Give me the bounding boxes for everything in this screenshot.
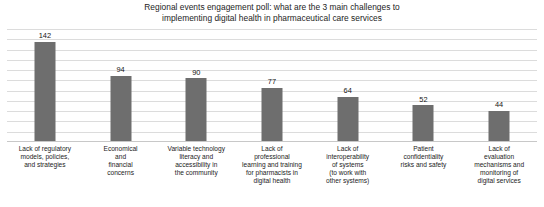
bar[interactable] xyxy=(489,111,510,142)
bar-group[interactable]: 64 xyxy=(310,29,386,142)
bar-group[interactable]: 44 xyxy=(461,29,537,142)
category-label-line: interoperability xyxy=(310,153,386,161)
category-label-line: risks and safety xyxy=(386,161,462,169)
category-label-line: of systems xyxy=(310,161,386,169)
category-label-line: Patient xyxy=(386,145,462,153)
bar-group[interactable]: 94 xyxy=(83,29,159,142)
bar-value-label: 44 xyxy=(495,101,503,109)
category-label-line: Economical xyxy=(83,145,159,153)
category-label-line: Lack of xyxy=(234,145,310,153)
category-label-line: for pharmacists in xyxy=(234,169,310,177)
bar-value-label: 77 xyxy=(268,78,276,86)
bar[interactable] xyxy=(413,105,434,142)
category-label-line: the community xyxy=(158,169,234,177)
chart-title: Regional events engagement poll: what ar… xyxy=(0,2,544,24)
category-label-line: Variable technology xyxy=(158,145,234,153)
bar-value-label: 64 xyxy=(344,87,352,95)
category-label-line: financial xyxy=(83,161,159,169)
bar-value-label: 142 xyxy=(39,32,51,40)
category-label-line: models, policies, xyxy=(7,153,83,161)
category-label-line: Lack of xyxy=(461,145,537,153)
category-label: Variable technologyliteracy andaccessibi… xyxy=(158,145,234,177)
category-label-line: literacy and xyxy=(158,153,234,161)
bar-value-label: 94 xyxy=(116,66,124,74)
bar-value-label: 52 xyxy=(419,96,427,104)
bar-group[interactable]: 142 xyxy=(7,29,83,142)
category-label: Lack ofevaluationmechanisms andmonitorin… xyxy=(461,145,537,185)
category-label-line: (to work with xyxy=(310,169,386,177)
category-label: Patientconfidentialityrisks and safety xyxy=(386,145,462,169)
category-label: Lack ofinteroperabilityof systems(to wor… xyxy=(310,145,386,185)
bar-group[interactable]: 52 xyxy=(386,29,462,142)
bar-group[interactable]: 77 xyxy=(234,29,310,142)
bar-group[interactable]: 90 xyxy=(158,29,234,142)
category-label-line: confidentiality xyxy=(386,153,462,161)
category-labels: Lack of regulatorymodels, policies,and s… xyxy=(7,145,537,205)
category-label-line: and strategies xyxy=(7,161,83,169)
category-label-line: digital services xyxy=(461,177,537,185)
chart-title-line-1: Regional events engagement poll: what ar… xyxy=(0,2,544,13)
bar[interactable] xyxy=(110,76,131,142)
category-label-line: mechanisms and xyxy=(461,161,537,169)
category-label-line: other systems) xyxy=(310,177,386,185)
bars-layer: 142949077645244 xyxy=(7,29,537,142)
x-axis-baseline xyxy=(7,141,537,142)
category-label-line: digital health xyxy=(234,177,310,185)
category-label-line: accessibility in xyxy=(158,161,234,169)
bar[interactable] xyxy=(337,97,358,142)
chart-title-line-2: implementing digital health in pharmaceu… xyxy=(0,13,544,24)
category-label-line: learning and training xyxy=(234,161,310,169)
bar[interactable] xyxy=(34,42,55,142)
category-label: Economicalandfinancialconcerns xyxy=(83,145,159,177)
category-label: Lack of regulatorymodels, policies,and s… xyxy=(7,145,83,169)
bar-chart: Regional events engagement poll: what ar… xyxy=(0,0,544,207)
category-label-line: concerns xyxy=(83,169,159,177)
category-label-line: professional xyxy=(234,153,310,161)
category-label-line: Lack of xyxy=(310,145,386,153)
category-label-line: monitoring of xyxy=(461,169,537,177)
bar[interactable] xyxy=(186,78,207,142)
plot-area: 142949077645244 xyxy=(7,29,537,142)
category-label-line: evaluation xyxy=(461,153,537,161)
category-label-line: and xyxy=(83,153,159,161)
bar-value-label: 90 xyxy=(192,69,200,77)
category-label: Lack ofprofessionallearning and training… xyxy=(234,145,310,185)
category-label-line: Lack of regulatory xyxy=(7,145,83,153)
bar[interactable] xyxy=(261,88,282,142)
